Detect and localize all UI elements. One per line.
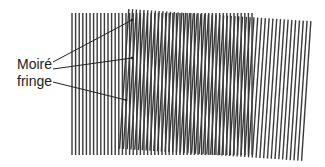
leader-line [53,58,132,69]
moire-label: Moiré [17,56,52,72]
leader-end-dot [125,99,128,102]
leader-end-dot [131,57,134,60]
leader-end-dot [131,19,134,22]
fringe-label: fringe [17,73,52,89]
leader-line [53,20,132,62]
